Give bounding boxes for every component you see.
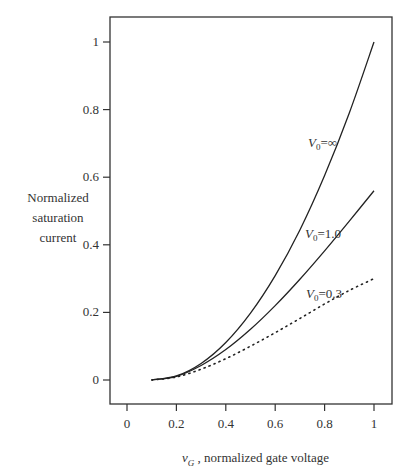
x-tick-label: 0.6 <box>267 416 284 431</box>
y-axis-label-line-3: current <box>8 228 108 248</box>
series-label: V0=∞ <box>308 135 337 152</box>
x-tick-label: 0.8 <box>316 416 332 431</box>
x-axis-label-text: , normalized gate voltage <box>194 450 329 465</box>
plot-frame <box>110 17 392 404</box>
series-labels: V0=∞V0=1.0V0=0.3 <box>305 135 342 303</box>
data-series <box>152 42 374 380</box>
y-tick-label: 0.6 <box>83 169 100 184</box>
series-line <box>152 42 374 380</box>
y-tick-label: 1 <box>93 34 100 49</box>
y-tick-label: 0.2 <box>83 304 99 319</box>
series-label: V0=0.3 <box>306 286 342 303</box>
series-label: V0=1.0 <box>305 226 341 243</box>
x-axis-label: vG , normalized gate voltage <box>100 450 411 468</box>
y-axis-label-line-1: Normalized <box>8 188 108 208</box>
y-tick-label: 0 <box>93 372 100 387</box>
y-axis-label-line-2: saturation <box>8 208 108 228</box>
x-axis-ticks: 00.20.40.60.81 <box>124 404 378 431</box>
x-tick-label: 0 <box>124 416 131 431</box>
x-tick-label: 1 <box>371 416 378 431</box>
y-tick-label: 0.8 <box>83 102 99 117</box>
x-tick-label: 0.4 <box>218 416 235 431</box>
x-tick-label: 0.2 <box>168 416 184 431</box>
y-axis-label: Normalized saturation current <box>8 188 108 248</box>
